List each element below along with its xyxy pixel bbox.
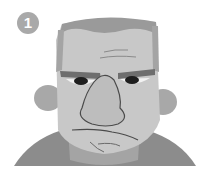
grumpy-face-illustration bbox=[0, 0, 208, 177]
right-pupil bbox=[125, 76, 139, 84]
left-pupil bbox=[74, 77, 88, 85]
